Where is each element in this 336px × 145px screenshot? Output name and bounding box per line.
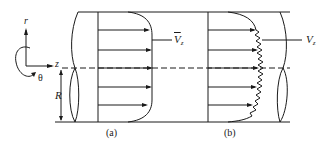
profile-b-arrows xyxy=(208,30,257,105)
caption-a: (a) xyxy=(106,128,117,138)
theta-rotation-icon xyxy=(16,47,34,76)
theta-label: θ xyxy=(38,73,43,83)
velocity-label-instant: Vz xyxy=(306,34,315,47)
profile-a-arrows xyxy=(98,30,151,105)
right-cross-section xyxy=(277,12,287,122)
pipe-flow-diagram xyxy=(0,0,336,145)
velocity-label-mean-main: V xyxy=(174,33,181,45)
r-axis-arrowhead xyxy=(24,28,28,35)
z-axis-label: z xyxy=(55,59,59,69)
velocity-label-instant-main: V xyxy=(306,33,313,45)
left-cross-section xyxy=(70,12,79,122)
z-axis-arrowhead xyxy=(47,64,54,68)
velocity-label-mean: Vz xyxy=(174,34,183,47)
r-axis-label: r xyxy=(24,16,28,26)
caption-b: (b) xyxy=(224,128,236,138)
radius-label: R xyxy=(55,90,62,101)
velocity-label-instant-sub: z xyxy=(313,39,316,47)
velocity-label-mean-sub: z xyxy=(181,39,184,47)
